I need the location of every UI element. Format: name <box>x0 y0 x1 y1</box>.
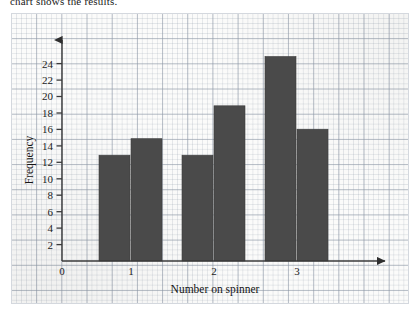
y-tick-label: 12 <box>42 156 53 168</box>
x-tick-label: 2 <box>211 265 217 277</box>
x-axis-title: Number on spinner <box>171 283 260 296</box>
y-axis-title: Frequency <box>23 135 36 184</box>
y-tick-label: 6 <box>48 206 54 218</box>
bar-2 <box>131 139 162 261</box>
y-tick-label: 8 <box>48 189 54 201</box>
y-tick-label: 20 <box>42 90 54 102</box>
y-tick-label: 22 <box>42 74 53 86</box>
bar-chart: 2 4 6 8 10 12 14 16 18 20 22 24 0 1 2 3 … <box>0 0 420 317</box>
x-tick-label: 3 <box>294 265 300 277</box>
bar-1 <box>99 155 130 261</box>
x-tick-label: 1 <box>128 265 134 277</box>
y-tick-label: 4 <box>48 222 54 234</box>
y-tick-label: 24 <box>42 58 54 70</box>
y-tick-label: 10 <box>42 173 54 185</box>
bar-3 <box>182 155 213 261</box>
bar-6 <box>297 129 328 261</box>
y-axis-tick-labels: 2 4 6 8 10 12 14 16 18 20 22 24 <box>42 58 54 251</box>
y-tick-label: 16 <box>42 123 54 135</box>
x-axis-tick-labels: 0 1 2 3 <box>59 265 300 277</box>
bar-4 <box>214 106 245 261</box>
x-tick-label: 0 <box>59 265 65 277</box>
y-axis-ticks <box>57 64 63 245</box>
y-tick-label: 18 <box>42 107 54 119</box>
bars-group <box>99 57 328 262</box>
bar-5 <box>265 57 296 262</box>
y-tick-label: 14 <box>42 140 54 152</box>
y-tick-label: 2 <box>48 239 54 251</box>
